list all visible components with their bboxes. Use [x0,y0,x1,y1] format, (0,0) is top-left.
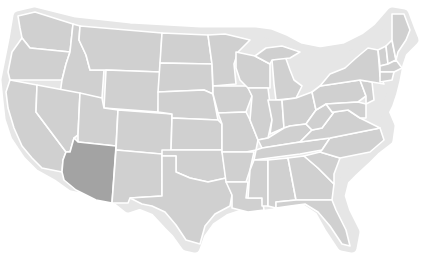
state-montana[interactable] [79,26,162,72]
state-wyoming[interactable] [104,70,160,112]
us-map-svg [0,0,435,257]
state-connecticut[interactable] [380,72,394,82]
state-south-dakota[interactable] [158,63,213,94]
state-north-dakota[interactable] [160,33,212,64]
state-colorado[interactable] [116,110,172,155]
state-kansas[interactable] [171,118,222,150]
us-map [0,0,435,257]
state-iowa[interactable] [213,86,252,113]
state-new-mexico[interactable] [112,150,162,203]
